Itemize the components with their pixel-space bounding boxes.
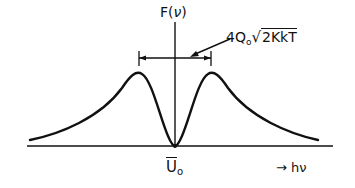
formula-radicand: 2KkT [261,28,297,45]
x-center-main: U [166,158,177,176]
formula-prefix: 4Q [226,29,246,45]
x-axis-label: → hν [276,160,307,175]
y-axis-label: F(ν) [160,4,187,20]
double-peak-curve [30,73,318,146]
arrow-right-icon: → [276,160,287,175]
x-center-subscript: o [177,166,183,177]
arrowhead-left-icon [139,56,146,61]
y-axis-label-func: F( [160,4,174,20]
arrowhead-right-icon [204,56,211,61]
sqrt-icon: √ [251,28,261,46]
y-axis-label-close: ) [181,4,186,20]
center-point [173,144,177,148]
leader-arrowhead-icon [190,51,199,57]
x-axis-label-text: hν [291,160,307,175]
x-center-label: Uo [166,158,183,177]
width-formula-label: 4Qo√2KkT [226,28,297,47]
